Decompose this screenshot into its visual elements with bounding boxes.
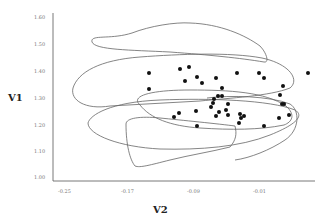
- y-axis-label: V1: [7, 92, 23, 103]
- x-tick: -0.01: [253, 188, 266, 194]
- contour-lower: [88, 99, 299, 149]
- y-tick: 1.40: [34, 68, 45, 74]
- x-tick: -0.09: [187, 188, 200, 194]
- x-tick: -0.25: [58, 188, 71, 194]
- scatter-chart: 1.00 1.10 1.20 1.30 1.40 1.50 1.60 -0.25…: [0, 0, 323, 220]
- y-tick: 1.00: [34, 174, 45, 180]
- x-tick-labels: -0.25 -0.17 -0.09 -0.01: [58, 188, 266, 194]
- x-axis-label: V2: [152, 204, 168, 215]
- contour-bottom: [126, 117, 236, 166]
- y-tick-labels: 1.00 1.10 1.20 1.30 1.40 1.50 1.60: [34, 14, 45, 180]
- density-contours: [73, 23, 299, 167]
- y-tick: 1.50: [34, 41, 45, 47]
- x-tick: -0.17: [121, 188, 134, 194]
- y-tick: 1.20: [34, 122, 45, 128]
- contour-top: [92, 23, 267, 62]
- y-tick: 1.30: [34, 95, 45, 101]
- y-tick: 1.10: [34, 148, 45, 154]
- contour-right-lobe: [207, 96, 297, 160]
- y-tick: 1.60: [34, 14, 45, 20]
